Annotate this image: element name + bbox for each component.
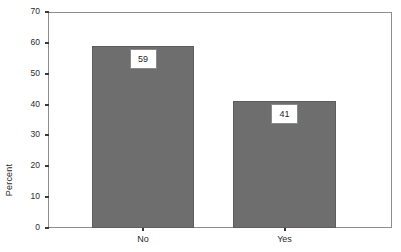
y-tick-mark xyxy=(45,73,49,75)
y-tick-label: 70 xyxy=(0,6,40,16)
y-tick-label: 20 xyxy=(0,160,40,170)
y-tick-mark xyxy=(45,165,49,167)
x-axis-label-yes: Yes xyxy=(255,233,315,245)
y-tick-label: 50 xyxy=(0,68,40,78)
x-tick-mark-yes xyxy=(284,228,286,231)
y-tick-mark xyxy=(45,196,49,198)
y-tick-label: 0 xyxy=(0,222,40,232)
bar-no xyxy=(92,46,194,228)
bar-value-label-no: 59 xyxy=(130,49,157,69)
y-tick-label: 10 xyxy=(0,191,40,201)
bar-value-label-yes: 41 xyxy=(271,104,298,124)
y-tick-label: 40 xyxy=(0,99,40,109)
bar-chart: Percent 706050403020100 5941 NoYes xyxy=(0,0,401,252)
x-axis-label-no: No xyxy=(113,233,173,245)
y-tick-mark xyxy=(45,104,49,106)
y-tick-mark xyxy=(45,42,49,44)
y-tick-label: 60 xyxy=(0,37,40,47)
x-tick-mark-no xyxy=(142,228,144,231)
y-tick-label: 30 xyxy=(0,129,40,139)
y-tick-mark xyxy=(45,11,49,13)
y-tick-mark xyxy=(45,227,49,229)
y-tick-mark xyxy=(45,134,49,136)
